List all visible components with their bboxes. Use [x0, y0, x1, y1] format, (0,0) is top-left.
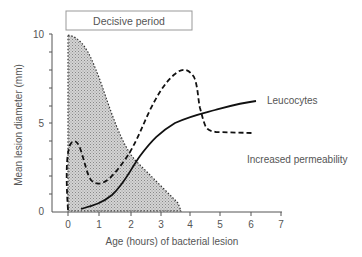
svg-text:2: 2 — [128, 219, 134, 230]
y-tick-10: 10 — [33, 29, 45, 40]
svg-text:7: 7 — [278, 219, 284, 230]
svg-text:0: 0 — [65, 219, 71, 230]
x-axis: 0 1 2 3 4 5 6 7 Age (hours) of bacterial… — [52, 212, 284, 247]
svg-text:4: 4 — [187, 219, 193, 230]
decisive-period-box: Decisive period — [66, 11, 192, 30]
y-axis: 10 5 0 Mean lesion diameter (mm) — [13, 29, 52, 217]
chart: Decisive period 10 5 0 Mean lesion diame… — [0, 0, 362, 257]
svg-text:1: 1 — [96, 219, 102, 230]
svg-text:5: 5 — [217, 219, 223, 230]
svg-text:6: 6 — [248, 219, 254, 230]
y-axis-label: Mean lesion diameter (mm) — [13, 64, 24, 186]
decisive-area — [68, 35, 181, 211]
x-axis-label: Age (hours) of bacterial lesion — [106, 236, 239, 247]
y-tick-5: 5 — [38, 118, 44, 129]
svg-text:3: 3 — [158, 219, 164, 230]
permeability-label: Increased permeability — [247, 154, 348, 165]
decisive-period-label: Decisive period — [93, 15, 165, 27]
y-tick-0: 0 — [38, 206, 44, 217]
leucocytes-label: Leucocytes — [267, 95, 318, 106]
